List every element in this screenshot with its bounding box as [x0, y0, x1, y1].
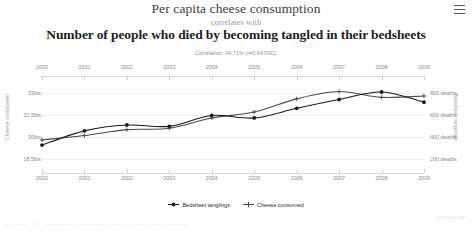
- data-point: [125, 123, 129, 127]
- legend-cross-icon: [243, 201, 254, 208]
- data-point: [40, 138, 44, 142]
- chart-legend: Bedsheet tanglingsCheese consumed: [0, 201, 472, 208]
- legend-item[interactable]: Cheese consumed: [243, 201, 304, 208]
- data-point: [422, 94, 426, 98]
- data-point: [252, 110, 256, 114]
- data-point: [337, 98, 341, 102]
- legend-circle-icon: [168, 201, 179, 208]
- data-point: [82, 133, 86, 137]
- data-point: [379, 95, 383, 99]
- legend-label: Cheese consumed: [257, 202, 304, 208]
- chart-area: 2000200120022003200420052006200720082009…: [0, 62, 472, 197]
- data-point: [294, 97, 298, 101]
- data-sources-note: data sources: U.S. Department of Agricul…: [3, 222, 189, 227]
- data-point: [40, 143, 44, 147]
- data-point: [422, 100, 426, 104]
- data-point: [380, 90, 384, 94]
- site-watermark: tylervigen.com: [436, 215, 466, 220]
- chart-title-connector: correlates with: [0, 17, 472, 27]
- data-point: [125, 127, 129, 131]
- data-point: [295, 106, 299, 110]
- legend-label: Bedsheet tanglings: [182, 202, 230, 208]
- series-line: [42, 92, 424, 145]
- legend-item[interactable]: Bedsheet tanglings: [168, 201, 230, 208]
- data-point: [83, 129, 87, 133]
- data-point: [210, 114, 214, 118]
- spurious-correlation-chart-page: Per capita cheese consumption correlates…: [0, 0, 472, 241]
- data-point: [252, 116, 256, 120]
- data-point: [337, 89, 341, 93]
- chart-title-secondary: Number of people who died by becoming ta…: [0, 27, 472, 43]
- plot-lines: [0, 62, 472, 197]
- chart-title-primary: Per capita cheese consumption: [0, 1, 472, 17]
- data-point: [167, 124, 171, 128]
- correlation-value: Correlation: 94.71% (r=0.947091): [0, 50, 472, 56]
- series-line: [42, 92, 424, 140]
